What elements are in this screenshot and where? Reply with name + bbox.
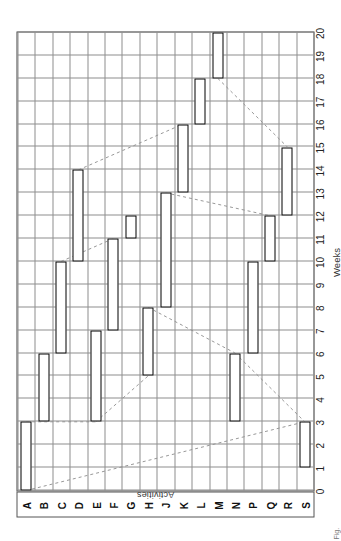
- x-axis-tick-19: 19: [314, 44, 325, 68]
- y-axis-tick-j: J: [157, 495, 174, 515]
- grid-line-horizontal: [191, 32, 192, 490]
- y-axis-tick-m: M: [210, 495, 227, 515]
- grid-line-horizontal: [52, 32, 53, 490]
- figure-body: Activities ABCDEFGHJKLMNPQRS 01234567891…: [0, 0, 341, 541]
- grid-line-horizontal: [278, 32, 279, 490]
- grid-line-horizontal: [139, 32, 140, 490]
- x-axis-tick-18: 18: [314, 67, 325, 91]
- x-axis-tick-1: 1: [314, 456, 325, 480]
- x-axis-tick-0: 0: [314, 479, 325, 503]
- x-axis-tick-6: 6: [314, 342, 325, 366]
- gantt-bar[interactable]: [38, 353, 49, 422]
- x-axis-tick-7: 7: [314, 319, 325, 343]
- gantt-bar[interactable]: [177, 124, 188, 193]
- y-axis-tick-q: Q: [262, 495, 279, 515]
- grid-line-vertical: [17, 77, 313, 78]
- y-axis-tick-g: G: [122, 495, 139, 515]
- figure-caption: Fig.: [332, 499, 339, 539]
- x-axis-label: Weeks: [330, 33, 341, 491]
- x-axis-tick-3: 3: [314, 410, 325, 434]
- grid-line-vertical: [17, 146, 313, 147]
- y-axis-tick-h: H: [140, 495, 157, 515]
- gantt-bar[interactable]: [212, 32, 223, 78]
- y-axis-tick-f: F: [105, 495, 122, 515]
- y-axis-tick-b: B: [35, 495, 52, 515]
- grid-line-horizontal: [243, 32, 244, 490]
- gantt-bar[interactable]: [229, 353, 240, 422]
- dependency-line: [235, 353, 305, 422]
- x-axis-tick-10: 10: [314, 250, 325, 274]
- y-axis-tick-k: K: [175, 495, 192, 515]
- y-axis-tick-p: P: [244, 495, 261, 515]
- x-axis-tick-11: 11: [314, 227, 325, 251]
- x-axis-tick-14: 14: [314, 158, 325, 182]
- grid-line-vertical: [17, 466, 313, 467]
- plot-area: [16, 31, 314, 491]
- grid-line-vertical: [17, 420, 313, 421]
- rotated-figure-canvas: Activities ABCDEFGHJKLMNPQRS 01234567891…: [0, 0, 341, 541]
- grid-line-vertical: [17, 489, 313, 490]
- x-axis-tick-20: 20: [314, 21, 325, 45]
- grid-line-vertical: [17, 54, 313, 55]
- gantt-bar[interactable]: [247, 261, 258, 353]
- y-axis-tick-s: S: [297, 495, 314, 515]
- gantt-bar[interactable]: [125, 215, 136, 238]
- grid-line-horizontal: [261, 32, 262, 490]
- x-axis-tick-labels: 01234567891011121314151617181920: [314, 33, 330, 491]
- gantt-bar[interactable]: [107, 238, 118, 330]
- x-axis-tick-4: 4: [314, 387, 325, 411]
- x-axis-tick-16: 16: [314, 113, 325, 137]
- dependency-line: [217, 78, 287, 147]
- gantt-bar[interactable]: [20, 421, 31, 490]
- dependency-line: [165, 192, 269, 215]
- y-axis-tick-l: L: [192, 495, 209, 515]
- x-axis-tick-12: 12: [314, 204, 325, 228]
- y-axis-tick-d: D: [70, 495, 87, 515]
- gantt-chart-figure: Activities ABCDEFGHJKLMNPQRS 01234567891…: [0, 0, 341, 541]
- grid-line-horizontal: [174, 32, 175, 490]
- gantt-bar[interactable]: [72, 169, 83, 261]
- grid-line-vertical: [17, 397, 313, 398]
- gantt-bar[interactable]: [194, 78, 205, 124]
- gantt-bar[interactable]: [299, 421, 310, 467]
- grid-line-horizontal: [17, 32, 18, 490]
- dependency-line: [26, 421, 305, 490]
- gantt-bar[interactable]: [55, 261, 66, 353]
- y-axis-tick-r: R: [279, 495, 296, 515]
- grid-line-horizontal: [69, 32, 70, 490]
- grid-line-vertical: [17, 168, 313, 169]
- grid-line-horizontal: [87, 32, 88, 490]
- gantt-bar[interactable]: [281, 147, 292, 216]
- gantt-bar[interactable]: [142, 307, 153, 376]
- gantt-bar[interactable]: [160, 192, 171, 307]
- x-axis-tick-8: 8: [314, 296, 325, 320]
- y-axis-tick-c: C: [53, 495, 70, 515]
- x-axis-tick-5: 5: [314, 365, 325, 389]
- x-axis-tick-13: 13: [314, 181, 325, 205]
- x-axis-tick-2: 2: [314, 433, 325, 457]
- grid-line-vertical: [17, 123, 313, 124]
- grid-line-horizontal: [156, 32, 157, 490]
- y-axis-tick-a: A: [18, 495, 35, 515]
- gantt-bar[interactable]: [264, 215, 275, 261]
- y-axis-tick-n: N: [227, 495, 244, 515]
- grid-line-vertical: [17, 443, 313, 444]
- x-axis-tick-9: 9: [314, 273, 325, 297]
- x-axis-tick-15: 15: [314, 136, 325, 160]
- gantt-bar[interactable]: [90, 330, 101, 422]
- y-axis-tick-e: E: [88, 495, 105, 515]
- grid-line-vertical: [17, 100, 313, 101]
- grid-line-horizontal: [34, 32, 35, 490]
- grid-line-horizontal: [121, 32, 122, 490]
- y-axis-tick-labels: ABCDEFGHJKLMNPQRS: [18, 495, 310, 515]
- grid-line-horizontal: [296, 32, 297, 490]
- x-axis-tick-17: 17: [314, 90, 325, 114]
- grid-line-horizontal: [209, 32, 210, 490]
- grid-line-vertical: [17, 31, 313, 32]
- grid-line-horizontal: [226, 32, 227, 490]
- grid-line-horizontal: [104, 32, 105, 490]
- grid-line-vertical: [17, 375, 313, 376]
